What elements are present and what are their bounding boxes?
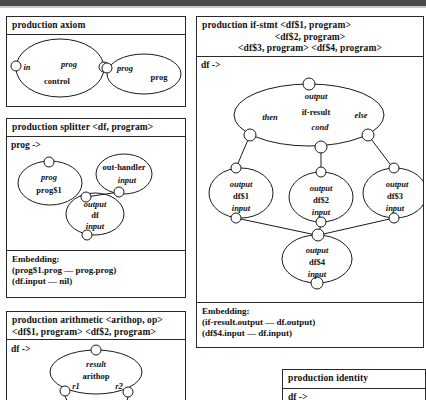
production-if-stmt-title: production if-stmt <df$1, program> <df$2… xyxy=(197,17,423,57)
identity-lhs-label: df -> xyxy=(288,392,307,400)
df4-line1: output xyxy=(306,245,329,255)
production-arithmetic-title: production arithmetic <arithop, op> <df$… xyxy=(7,312,185,340)
splitter-df-line3: input xyxy=(86,221,105,231)
if-stmt-embedding-title: Embedding: xyxy=(202,306,418,317)
if-stmt-title-line-2: <df$2, program> xyxy=(202,32,418,44)
splitter-graph-svg: prog prog$1 out-handler input output df … xyxy=(7,137,185,250)
arithmetic-edge-r1-down xyxy=(65,396,69,400)
axiom-control-in-port xyxy=(11,61,21,71)
if-stmt-title-line-3: <df$3, program> <df$4, program> xyxy=(202,43,418,55)
ifresult-else-label: else xyxy=(354,110,367,120)
splitter-embedding-title: Embedding: xyxy=(12,254,180,265)
splitter-prog1-top-port xyxy=(44,157,54,167)
df1-line3: input xyxy=(232,203,251,213)
df2-line1: output xyxy=(310,183,333,193)
df3-line3: input xyxy=(386,203,405,213)
df1-top-port xyxy=(231,163,241,173)
splitter-prog1-line2: prog$1 xyxy=(36,185,61,195)
production-identity-graph: df -> xyxy=(283,389,425,400)
ifresult-line1: output xyxy=(305,91,328,101)
production-identity-panel: production identity df -> xyxy=(282,369,426,400)
splitter-df-line2: df xyxy=(91,210,99,220)
ifresult-line2: if-result xyxy=(302,107,331,117)
ifresult-cond-label: cond xyxy=(312,122,330,132)
production-splitter-title: production splitter <df, program> xyxy=(7,119,185,137)
df1-line1: output xyxy=(230,179,253,189)
edge-df1-df4 xyxy=(236,218,316,235)
production-axiom-graph: in prog control prog prog xyxy=(7,35,185,106)
production-axiom-panel: production axiom in prog control prog pr… xyxy=(6,16,186,107)
arithmetic-r2-label: r2 xyxy=(115,381,123,391)
axiom-in-label: in xyxy=(23,62,30,72)
arithmetic-r1-port xyxy=(60,386,70,396)
arithmetic-r2-port xyxy=(123,387,133,397)
arithmetic-title-line-2: <df$1, program> <df$2, program> xyxy=(12,327,180,339)
df3-line2: df$3 xyxy=(387,191,403,201)
top-gray-band xyxy=(0,6,426,8)
df3-top-port xyxy=(389,163,399,173)
screenshot-page: production axiom in prog control prog pr… xyxy=(0,0,426,400)
axiom-graph-svg: in prog control prog prog xyxy=(7,35,185,106)
arithmetic-r1-label: r1 xyxy=(72,381,80,391)
production-splitter-panel: production splitter <df, program> prog -… xyxy=(6,118,186,298)
if-stmt-embedding-block: Embedding: (if-result.output — df.output… xyxy=(197,302,423,347)
splitter-outhandler-bottom-port xyxy=(114,187,124,197)
df1-bottom-port xyxy=(231,213,241,223)
df2-bottom-port xyxy=(316,217,326,227)
arithmetic-graph-svg: result arithop r1 r2 xyxy=(7,340,185,400)
ifresult-cond-port xyxy=(315,141,327,153)
df4-line2: df$4 xyxy=(309,257,326,267)
df3-line1: output xyxy=(386,179,409,189)
production-arithmetic-panel: production arithmetic <arithop, op> <df$… xyxy=(6,311,186,400)
production-axiom-title: production axiom xyxy=(7,17,185,35)
production-arithmetic-graph: df -> result arithop r1 r2 xyxy=(7,340,185,400)
splitter-df-line1: output xyxy=(84,199,107,209)
df4-line3: input xyxy=(308,269,327,279)
splitter-embedding-line-2: (df.input — nil) xyxy=(12,276,180,287)
splitter-outhandler-line1: out-handler xyxy=(103,162,146,172)
axiom-prog-name-label: prog xyxy=(151,72,169,82)
if-stmt-title-line-1: production if-stmt <df$1, program> xyxy=(202,20,418,32)
splitter-outhandler-ellipse xyxy=(96,154,152,194)
axiom-control-attr-label: prog xyxy=(60,59,78,69)
ifresult-then-label: then xyxy=(262,112,278,122)
axiom-prog-ellipse xyxy=(107,54,181,94)
production-identity-title: production identity xyxy=(283,370,425,389)
axiom-prog-in-port xyxy=(102,63,112,73)
df2-top-port xyxy=(316,167,326,177)
if-stmt-embedding-line-1: (if-result.output — df.output) xyxy=(202,317,418,328)
production-if-stmt-panel: production if-stmt <df$1, program> <df$2… xyxy=(196,16,424,348)
axiom-control-name-label: control xyxy=(44,76,70,86)
arithmetic-line2: arithop xyxy=(83,371,110,381)
arithmetic-line1: result xyxy=(86,359,106,369)
ifresult-output-port xyxy=(303,78,315,90)
arithmetic-title-line-1: production arithmetic <arithop, op> xyxy=(12,315,180,327)
splitter-embedding-block: Embedding: (prog$1.prog — prog.prog) (df… xyxy=(7,250,185,297)
ifresult-else-port xyxy=(362,129,374,141)
df2-line2: df$2 xyxy=(313,195,329,205)
arithmetic-top-port xyxy=(91,345,101,355)
splitter-prog1-ellipse xyxy=(18,161,82,205)
production-splitter-graph: prog -> prog prog$1 out-handler input ou… xyxy=(7,137,185,250)
splitter-prog1-line1: prog xyxy=(40,172,58,182)
ifresult-then-port xyxy=(244,129,256,141)
splitter-embedding-line-1: (prog$1.prog — prog.prog) xyxy=(12,265,180,276)
df3-bottom-port xyxy=(389,213,399,223)
splitter-df-bottom-port xyxy=(82,230,92,240)
df1-line2: df$1 xyxy=(233,191,249,201)
production-if-stmt-graph: df -> xyxy=(197,57,423,302)
df2-line3: input xyxy=(312,207,331,217)
splitter-outhandler-line2: input xyxy=(118,175,137,185)
axiom-prog-port-label: prog xyxy=(116,63,134,73)
df4-top-port xyxy=(312,229,324,241)
if-stmt-graph-svg: output if-result then else cond output d… xyxy=(197,57,423,302)
if-stmt-embedding-line-2: (df$4.input — df.input) xyxy=(202,328,418,339)
